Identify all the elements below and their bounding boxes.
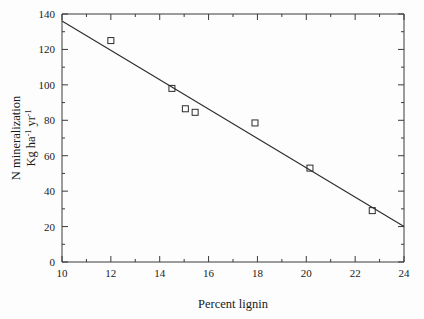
y-tick-label: 20 (44, 221, 56, 233)
regression-line (62, 21, 404, 226)
trend-line-path (62, 21, 404, 226)
data-point-marker (182, 106, 188, 112)
x-tick-label: 14 (154, 267, 166, 279)
y-tick-label: 60 (44, 150, 56, 162)
x-tick-label: 12 (105, 267, 116, 279)
data-point-marker (252, 120, 258, 126)
data-point-marker (192, 109, 198, 115)
x-tick-label: 22 (350, 267, 361, 279)
y-tick-label: 140 (39, 8, 56, 20)
x-axis-title: Percent lignin (198, 297, 269, 311)
y-axis-title-line2: Kg ha-1 yr-1 (24, 109, 38, 166)
y-tick-label: 0 (50, 256, 56, 268)
y-tick-label: 100 (39, 79, 56, 91)
axis-spines (62, 14, 404, 262)
x-tick-label: 24 (399, 267, 411, 279)
y-axis-tick-labels: 020406080100120140 (39, 8, 56, 268)
plot-frame (62, 14, 404, 262)
data-point-marker (108, 38, 114, 44)
chart-figure: 1012141618202224 020406080100120140 Perc… (0, 0, 424, 319)
y-tick-label: 40 (44, 185, 56, 197)
x-tick-label: 20 (301, 267, 313, 279)
scatter-plot: 1012141618202224 020406080100120140 Perc… (0, 0, 424, 319)
x-tick-label: 18 (252, 267, 264, 279)
axis-frame-top-right (62, 14, 404, 262)
data-points (108, 38, 375, 214)
x-tick-label: 16 (203, 267, 215, 279)
x-tick-label: 10 (57, 267, 69, 279)
x-axis-ticks (62, 14, 404, 262)
y-tick-label: 120 (39, 43, 56, 55)
y-tick-label: 80 (44, 114, 56, 126)
y-axis-ticks (62, 14, 404, 262)
x-axis-tick-labels: 1012141618202224 (57, 267, 411, 279)
y-axis-title-line1: N mineralization (9, 95, 23, 180)
